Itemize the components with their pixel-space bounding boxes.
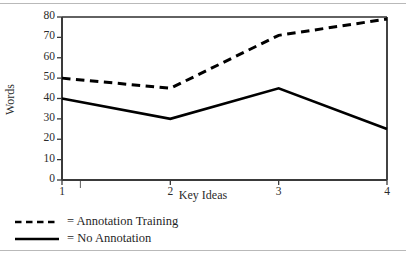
x-tick-label: 3: [269, 185, 289, 197]
legend-label-annotation-training: = Annotation Training: [67, 214, 178, 229]
legend-label-no-annotation: = No Annotation: [67, 231, 151, 246]
y-tick-label: 70: [29, 29, 55, 41]
series-line-2: [62, 88, 387, 129]
chart-legend: = Annotation Training = No Annotation: [14, 213, 274, 247]
x-tick-label: 2: [160, 185, 180, 197]
y-tick-label: 30: [29, 111, 55, 123]
figure-container: Words Key Ideas 01020304050607080 1234 =…: [0, 0, 406, 256]
solid-line-swatch-icon: [14, 233, 60, 245]
y-tick-label: 40: [29, 91, 55, 103]
x-tick-label: 1: [52, 185, 72, 197]
y-tick-label: 0: [29, 172, 55, 184]
y-tick-label: 20: [29, 131, 55, 143]
legend-item-no-annotation: = No Annotation: [14, 230, 274, 247]
y-tick-label: 80: [29, 9, 55, 21]
x-tick-label: 4: [377, 185, 397, 197]
y-tick-label: 10: [29, 152, 55, 164]
series-line-1: [62, 19, 387, 88]
y-tick-label: 50: [29, 70, 55, 82]
y-axis-title: Words: [3, 68, 18, 132]
y-tick-label: 60: [29, 50, 55, 62]
legend-item-annotation-training: = Annotation Training: [14, 213, 274, 230]
dashed-line-swatch-icon: [14, 216, 60, 228]
